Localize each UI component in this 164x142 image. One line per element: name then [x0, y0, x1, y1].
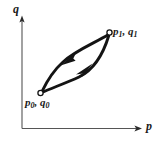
point-0-label: p0, q0 — [25, 97, 50, 108]
figure-canvas — [0, 0, 164, 142]
phase-space-figure: q p p1, q1 p0, q0 — [0, 0, 164, 142]
point-1-p-symbol: p — [113, 25, 119, 37]
direction-arrowheads — [61, 52, 93, 77]
point-0-p-symbol: p — [25, 96, 31, 108]
p-axis-label: p — [146, 120, 152, 132]
point-1-p-subscript: 1 — [119, 30, 123, 39]
point-1-q-symbol: q — [128, 25, 134, 37]
lower-trajectory-curve — [42, 36, 109, 93]
q-axis-label: q — [13, 3, 19, 15]
upper-trajectory-curve — [42, 35, 109, 92]
point-1-marker — [107, 30, 112, 35]
point-0-q-subscript: 0 — [46, 101, 50, 110]
point-0-marker — [38, 90, 43, 95]
point-1-label: p1, q1 — [113, 26, 138, 37]
trajectory-group — [42, 35, 109, 93]
point-1-q-subscript: 1 — [134, 30, 138, 39]
point-0-q-symbol: q — [40, 96, 46, 108]
point-0-p-subscript: 0 — [31, 101, 35, 110]
